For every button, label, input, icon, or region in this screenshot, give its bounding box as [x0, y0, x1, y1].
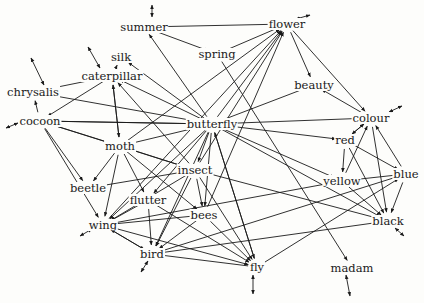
node-spring: spring [197, 48, 236, 60]
node-cocoon: cocoon [18, 115, 61, 127]
node-blue: blue [392, 168, 419, 180]
double-arrow-stub-icon [389, 106, 402, 112]
edge-cocoon-wing [45, 129, 99, 218]
edge-flower-colour [293, 31, 365, 112]
edge-butterfly-black [220, 128, 380, 216]
edge-bird-black [161, 222, 379, 253]
node-summer: summer [119, 21, 168, 33]
node-colour: colour [352, 112, 391, 124]
edge-cocoon-butterfly [49, 121, 203, 124]
node-flower: flower [268, 18, 307, 30]
node-black: black [371, 215, 404, 227]
edge-colour-beauty [322, 90, 363, 114]
node-silk: silk [110, 51, 132, 63]
word-association-diagram: summerflowerspringsilkcaterpillarbeautyc… [0, 0, 424, 303]
node-beauty: beauty [293, 79, 335, 91]
node-bird: bird [139, 248, 165, 260]
edge-moth-caterpillar [113, 85, 119, 137]
edge-fly-butterfly [215, 133, 255, 259]
edge-blue-colour [376, 126, 401, 167]
edge-moth-beetle [93, 153, 114, 181]
double-arrow-stub-icon [6, 123, 18, 128]
edge-moth-flutter [124, 154, 144, 192]
node-yellow: yellow [322, 175, 361, 187]
edge-blue-black [391, 182, 403, 212]
edge-bees-bird [159, 220, 197, 248]
double-arrow-stub-icon [346, 275, 350, 296]
double-arrow-stub-icon [31, 58, 44, 85]
node-insect: insect [177, 164, 214, 176]
edge-yellow-black [349, 187, 381, 215]
edge-layer [0, 0, 424, 303]
edge-cocoon-beetle [45, 128, 83, 180]
node-butterfly: butterfly [186, 118, 238, 130]
edge-fly-bird [161, 255, 248, 266]
edge-butterfly-beauty [220, 88, 305, 121]
node-fly: fly [249, 261, 265, 273]
edge-butterfly-colour [221, 118, 362, 123]
node-wing: wing [88, 219, 118, 231]
node-beetle: beetle [69, 182, 107, 194]
edge-insect-bees [197, 179, 202, 206]
node-red: red [334, 134, 356, 146]
double-arrow-stub-icon [88, 47, 100, 68]
node-bees: bees [190, 209, 219, 221]
double-arrow-stub-icon [395, 228, 404, 236]
edge-caterpillar-silk [116, 65, 117, 68]
node-chrysalis: chrysalis [6, 86, 60, 98]
node-flutter: flutter [129, 194, 168, 206]
edge-flutter-bird [149, 209, 152, 245]
edge-red-yellow [343, 149, 345, 172]
node-madam: madam [330, 262, 375, 274]
edge-butterfly-yellow [220, 128, 334, 178]
node-caterpillar: caterpillar [81, 70, 144, 82]
edge-cocoon-chrysalis [35, 101, 38, 113]
edge-insect-beetle [97, 171, 186, 186]
edge-flower-summer [153, 24, 278, 27]
edge-red-blue [353, 144, 398, 169]
edge-bees-wing [112, 216, 195, 224]
edge-butterfly-flower [217, 31, 281, 117]
double-arrow-stub-icon [141, 261, 148, 272]
edge-butterfly-flutter [154, 131, 206, 193]
node-moth: moth [104, 140, 136, 152]
